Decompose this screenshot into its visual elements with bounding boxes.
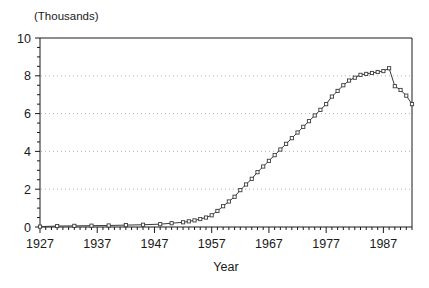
data-point-marker (159, 223, 162, 226)
data-point-marker (290, 137, 293, 140)
data-point-marker (330, 95, 333, 98)
data-point-marker (353, 76, 356, 79)
data-point-marker (141, 223, 144, 226)
line-chart: (Thousands) 0246810 19271937194719571967… (0, 0, 429, 288)
data-point-marker (279, 148, 282, 151)
y-tick-label-6: 6 (24, 107, 31, 121)
data-point-marker (273, 154, 276, 157)
x-tick-label-1957: 1957 (198, 237, 226, 251)
data-point-marker (250, 177, 253, 180)
x-axis-title: Year (213, 260, 238, 274)
data-point-marker (73, 224, 76, 227)
data-point-marker (187, 220, 190, 223)
data-point-marker (302, 125, 305, 128)
data-point-marker (336, 89, 339, 92)
chart-canvas: (Thousands) 0246810 19271937194719571967… (0, 0, 429, 288)
x-tick-label-1977: 1977 (312, 237, 340, 251)
x-tick-label-1967: 1967 (255, 237, 283, 251)
y-tick-label-10: 10 (17, 32, 31, 46)
x-tick-label-1987: 1987 (369, 237, 397, 251)
data-point-marker (90, 224, 93, 227)
data-point-marker (359, 73, 362, 76)
x-tick-label-1947: 1947 (141, 237, 169, 251)
data-point-marker (107, 224, 110, 227)
data-point-marker (193, 219, 196, 222)
data-point-marker (365, 72, 368, 75)
y-tick-label-8: 8 (24, 69, 31, 83)
data-point-marker (222, 205, 225, 208)
data-point-marker (233, 195, 236, 198)
data-point-marker (56, 224, 59, 227)
data-point-marker (284, 142, 287, 145)
y-tick-label-2: 2 (24, 183, 31, 197)
y-tick-label-0: 0 (24, 221, 31, 235)
data-point-marker (325, 103, 328, 106)
data-point-marker (382, 69, 385, 72)
data-point-marker (405, 94, 408, 97)
data-point-marker (388, 67, 391, 70)
data-point-marker (313, 114, 316, 117)
data-point-marker (216, 209, 219, 212)
x-tick-label-1927: 1927 (26, 237, 54, 251)
data-point-marker (244, 183, 247, 186)
data-point-marker (124, 224, 127, 227)
data-point-marker (262, 165, 265, 168)
data-point-marker (410, 103, 413, 106)
unit-note-label: (Thousands) (34, 10, 99, 22)
data-point-marker (376, 70, 379, 73)
data-point-marker (319, 108, 322, 111)
data-point-marker (210, 214, 213, 217)
data-point-marker (370, 71, 373, 74)
data-point-marker (347, 79, 350, 82)
data-point-marker (342, 84, 345, 87)
data-point-marker (267, 159, 270, 162)
data-point-marker (393, 85, 396, 88)
data-point-marker (170, 222, 173, 225)
data-point-marker (199, 217, 202, 220)
data-point-marker (307, 120, 310, 123)
data-point-marker (256, 171, 259, 174)
data-point-marker (296, 131, 299, 134)
data-point-marker (399, 88, 402, 91)
data-point-marker (38, 225, 41, 228)
data-point-marker (227, 200, 230, 203)
y-tick-label-4: 4 (24, 145, 31, 159)
data-point-marker (204, 216, 207, 219)
data-point-marker (181, 221, 184, 224)
data-point-marker (239, 189, 242, 192)
x-tick-label-1937: 1937 (83, 237, 111, 251)
